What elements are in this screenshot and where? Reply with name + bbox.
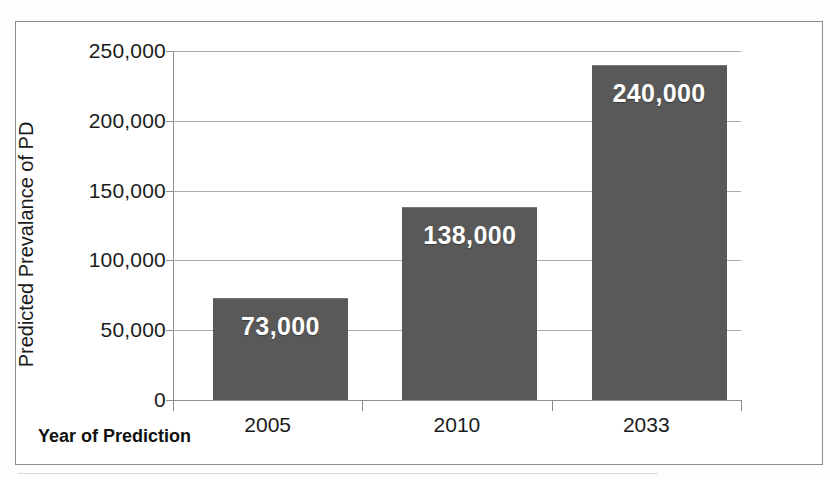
x-tick-mark <box>173 400 174 411</box>
y-tick-label: 50,000 <box>28 318 166 342</box>
y-tick-label: 0 <box>28 388 166 412</box>
bar-value-label: 240,000 <box>592 79 727 108</box>
x-tick-label-2010: 2010 <box>362 413 551 437</box>
x-tick-mark <box>552 400 553 411</box>
y-tick-mark <box>166 400 173 401</box>
scan-artifact <box>18 473 658 474</box>
y-tick-mark <box>166 191 173 192</box>
y-tick-label: 150,000 <box>28 179 166 203</box>
gridline-250000 <box>173 51 741 52</box>
y-tick-label: 200,000 <box>28 109 166 133</box>
y-tick-label: 250,000 <box>28 39 166 63</box>
bar-2010[interactable]: 138,000 <box>402 207 537 400</box>
scanned-page: Predicted Prevalance of PD 250,000 200,0… <box>0 0 839 478</box>
y-tick-label: 100,000 <box>28 248 166 272</box>
chart-frame: Predicted Prevalance of PD 250,000 200,0… <box>15 21 823 465</box>
x-tick-label-2033: 2033 <box>552 413 741 437</box>
x-tick-label-2005: 2005 <box>173 413 362 437</box>
bar-2005[interactable]: 73,000 <box>213 298 348 400</box>
plot-area: 73,000 138,000 240,000 2005 2010 2033 <box>173 51 741 400</box>
gridline-baseline <box>173 400 741 401</box>
bar-value-label: 138,000 <box>402 221 537 250</box>
x-axis-title: Year of Prediction <box>38 426 191 447</box>
y-tick-mark <box>166 260 173 261</box>
bar-2033[interactable]: 240,000 <box>592 65 727 400</box>
x-tick-mark <box>362 400 363 411</box>
y-tick-mark <box>166 330 173 331</box>
x-tick-mark <box>741 400 742 411</box>
y-tick-mark <box>166 51 173 52</box>
y-tick-mark <box>166 121 173 122</box>
bar-value-label: 73,000 <box>213 312 348 341</box>
